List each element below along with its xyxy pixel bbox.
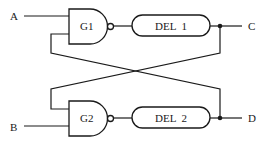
gate-label-g2: G2: [80, 112, 93, 124]
output-label-c: C: [248, 20, 255, 32]
input-label-a: A: [10, 10, 18, 22]
circuit-diagram: A B G1 G2 DEL 1 C DEL 2 D: [0, 0, 273, 141]
nand-gate-g2: G2: [69, 101, 114, 136]
input-label-b: B: [10, 121, 17, 133]
delay-label-del2: DEL 2: [155, 112, 187, 124]
inversion-bubble-icon: [108, 24, 114, 30]
delay-element-del1: DEL 1: [132, 15, 210, 36]
delay-element-del2: DEL 2: [132, 107, 210, 128]
delay-label-del1: DEL 1: [155, 20, 187, 32]
inversion-bubble-icon: [108, 116, 114, 122]
nand-gate-g1: G1: [69, 9, 114, 44]
gate-label-g1: G1: [80, 20, 93, 32]
output-label-d: D: [248, 112, 256, 124]
